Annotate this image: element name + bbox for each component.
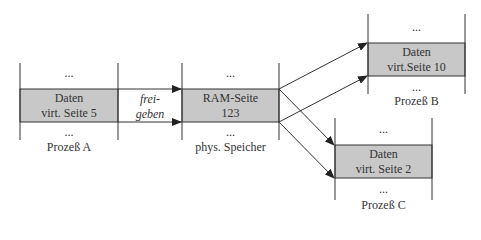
process-b-page-line2: virt.Seite 10 (368, 60, 465, 75)
process-c-page: Daten virt. Seite 2 (335, 147, 432, 177)
process-a-ellipsis-bottom: ... (20, 125, 118, 139)
process-b-ellipsis-bottom: ... (368, 80, 465, 94)
process-a-caption: Prozeß A (20, 140, 118, 154)
process-a-page: Daten virt. Seite 5 (20, 91, 118, 121)
process-b-ellipsis-top: ... (368, 20, 465, 34)
mapping-arrows-b (279, 43, 367, 122)
ram-page-line1: RAM-Seite (182, 91, 279, 106)
process-c-caption: Prozeß C (335, 198, 432, 212)
process-a-ellipsis-top: ... (20, 66, 118, 80)
process-c-ellipsis-bottom: ... (335, 182, 432, 196)
ram-caption: phys. Speicher (172, 140, 289, 154)
process-b-page: Daten virt.Seite 10 (368, 45, 465, 75)
release-label-line2: geben (118, 107, 182, 122)
mapping-arrows-c (279, 89, 334, 178)
ram-page-line2: 123 (182, 106, 279, 121)
process-a-page-line1: Daten (20, 91, 118, 106)
ram-ellipsis-top: ... (182, 66, 279, 80)
ram-ellipsis-bottom: ... (182, 125, 279, 139)
ram-page: RAM-Seite 123 (182, 91, 279, 121)
release-label: frei- geben (118, 92, 182, 122)
process-a-page-line2: virt. Seite 5 (20, 106, 118, 121)
process-c-ellipsis-top: ... (335, 122, 432, 136)
process-b-page-line1: Daten (368, 45, 465, 60)
process-b-caption: Prozeß B (368, 94, 465, 108)
release-label-line1: frei- (118, 92, 182, 107)
process-c-page-line1: Daten (335, 147, 432, 162)
process-c-page-line2: virt. Seite 2 (335, 162, 432, 177)
